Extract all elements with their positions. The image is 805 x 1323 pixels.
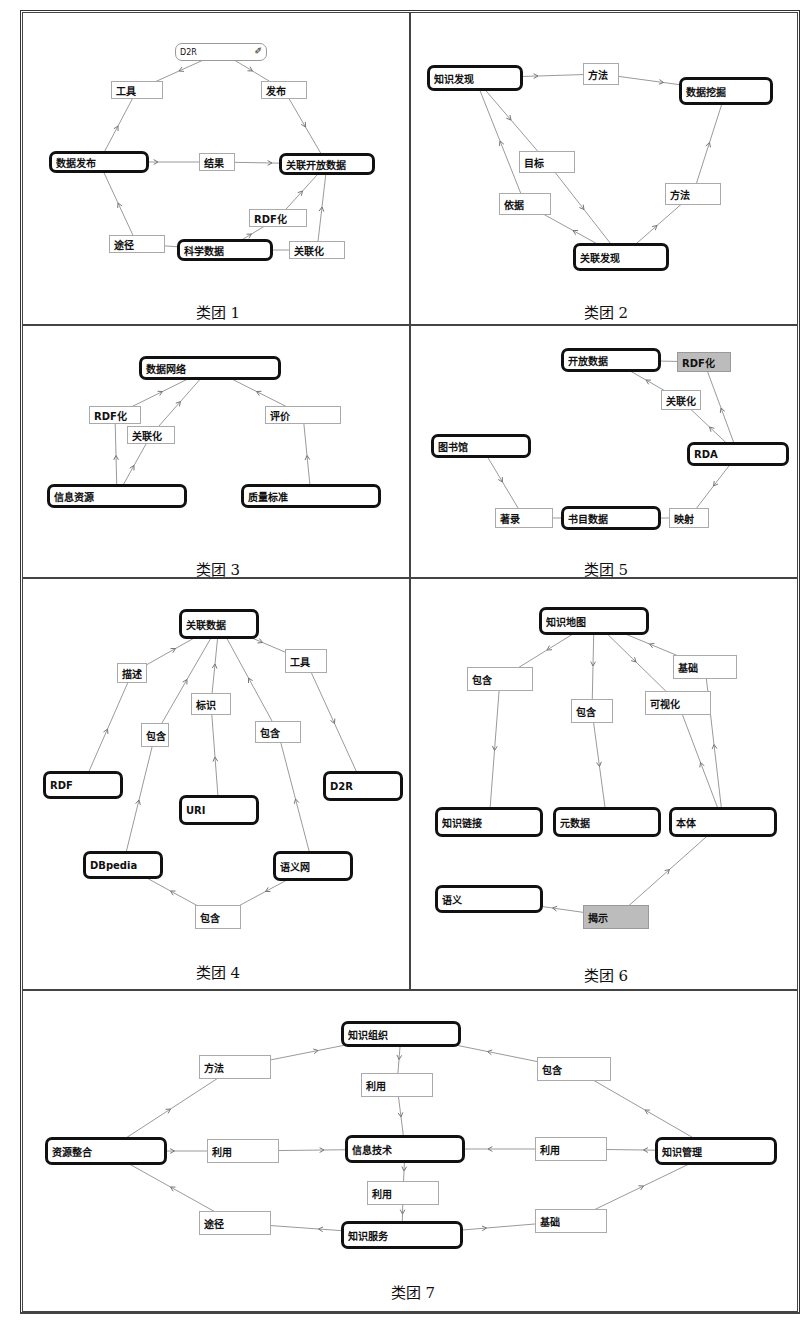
concept-node-zsdt: 知识地图 bbox=[539, 607, 649, 635]
cluster-caption: 类团 2 bbox=[584, 301, 628, 322]
cluster-panel-p3: 数据网络RDF化评价关联化信息资源质量标准类团 3 bbox=[22, 325, 410, 578]
relation-node-ksh: 可视化 bbox=[645, 691, 711, 715]
concept-node-sjwj: 数据挖掘 bbox=[679, 77, 773, 105]
concept-node-rdf: RDF bbox=[43, 771, 123, 799]
edge-glh-glkfsj bbox=[317, 164, 327, 250]
pin-icon: ✐ bbox=[254, 46, 262, 56]
edge-ff2-sjwj bbox=[693, 91, 726, 194]
arrowhead-icon bbox=[257, 391, 262, 395]
concept-node-zsfx: 知识发现 bbox=[427, 65, 523, 91]
arrowhead-icon bbox=[506, 115, 511, 120]
edge-yyw-bh2 bbox=[278, 732, 313, 866]
arrowhead-icon bbox=[534, 74, 538, 79]
arrowhead-icon bbox=[492, 746, 497, 751]
relation-node-bh61: 包含 bbox=[467, 667, 533, 691]
edge-rda-rdfh5 bbox=[704, 362, 738, 454]
arrowhead-icon bbox=[170, 1149, 174, 1154]
cluster-panel-p1: D2R✐工具发布数据发布结果关联开放数据RDF化途径科学数据关联化类团 1 bbox=[22, 12, 410, 325]
concept-node-rda: RDA bbox=[687, 442, 789, 466]
arrowhead-icon bbox=[179, 67, 184, 71]
arrowhead-icon bbox=[591, 662, 596, 666]
arrowhead-icon bbox=[136, 800, 141, 805]
bottom-rule bbox=[20, 1312, 800, 1314]
concept-node-sjwl: 数据网络 bbox=[139, 356, 281, 380]
relation-node-fb: 发布 bbox=[261, 81, 307, 99]
concept-node-zszz: 知识组织 bbox=[341, 1021, 461, 1047]
concept-node-zslj: 知识链接 bbox=[435, 807, 543, 837]
concept-node-glkfsj: 关联开放数据 bbox=[279, 153, 375, 175]
relation-node-ff1: 方法 bbox=[583, 63, 619, 85]
cluster-panel-p2: 知识发现方法数据挖掘目标方法依据关联发现类团 2 bbox=[410, 12, 798, 325]
arrowhead-icon bbox=[665, 870, 670, 875]
arrowhead-icon bbox=[313, 1049, 318, 1054]
cluster-panel-p5: 开放数据RDF化关联化图书馆RDA著录书目数据映射类团 5 bbox=[410, 325, 798, 578]
edge-rdf-ms bbox=[83, 673, 132, 785]
concept-node-zsgl: 知识管理 bbox=[655, 1137, 777, 1165]
relation-node-d2r: D2R✐ bbox=[175, 43, 267, 61]
edge-bh1-glsj bbox=[155, 624, 219, 735]
arrowhead-icon bbox=[294, 799, 299, 804]
arrowhead-icon bbox=[645, 1110, 650, 1114]
arrowhead-icon bbox=[268, 161, 272, 166]
arrowhead-icon bbox=[710, 427, 715, 432]
arrowhead-icon bbox=[488, 1147, 492, 1152]
arrowhead-icon bbox=[659, 80, 664, 85]
arrowhead-icon bbox=[114, 126, 118, 131]
relation-node-pj: 评价 bbox=[265, 406, 341, 424]
arrowhead-icon bbox=[700, 763, 704, 768]
relation-node-tj: 途径 bbox=[109, 235, 165, 253]
relation-node-tj7: 途径 bbox=[199, 1211, 271, 1235]
arrowhead-icon bbox=[247, 234, 252, 238]
arrowhead-icon bbox=[482, 1226, 487, 1231]
arrowhead-icon bbox=[298, 191, 303, 196]
cluster-caption: 类团 5 bbox=[584, 558, 628, 579]
arrowhead-icon bbox=[650, 643, 655, 647]
arrowhead-icon bbox=[644, 1148, 648, 1153]
arrowhead-icon bbox=[597, 762, 602, 767]
arrowhead-icon bbox=[248, 67, 253, 71]
relation-node-ys: 映射 bbox=[669, 508, 709, 528]
relation-node-jc7: 基础 bbox=[535, 1209, 607, 1233]
relation-node-bh62: 包含 bbox=[571, 699, 613, 723]
arrowhead-icon bbox=[130, 466, 134, 471]
relation-node-jc: 基础 bbox=[673, 655, 737, 679]
arrowhead-icon bbox=[158, 391, 163, 395]
concept-node-zlbz: 质量标准 bbox=[241, 484, 381, 508]
edge-bh62-ysj bbox=[592, 711, 607, 822]
relation-node-ly3: 利用 bbox=[535, 1137, 607, 1161]
arrowhead-icon bbox=[154, 160, 158, 165]
relation-node-glh: 关联化 bbox=[289, 241, 345, 259]
relation-node-bs: 标识 bbox=[191, 693, 231, 715]
arrowhead-icon bbox=[706, 143, 711, 148]
arrowhead-icon bbox=[631, 657, 636, 662]
arrowhead-icon bbox=[652, 226, 657, 231]
arrowhead-icon bbox=[258, 639, 263, 643]
relation-node-rdfh3: RDF化 bbox=[89, 406, 141, 424]
cluster-caption: 类团 4 bbox=[196, 961, 240, 982]
relation-node-glh5: 关联化 bbox=[661, 390, 701, 410]
relation-node-bh2: 包含 bbox=[255, 721, 301, 743]
arrowhead-icon bbox=[646, 380, 651, 384]
edge-yj-zsfx bbox=[475, 78, 525, 204]
relation-node-ly2: 利用 bbox=[207, 1139, 279, 1163]
arrowhead-icon bbox=[639, 1186, 644, 1190]
arrowhead-icon bbox=[488, 1050, 493, 1055]
edge-bt-ksh bbox=[678, 703, 723, 822]
relation-node-mb: 目标 bbox=[519, 151, 575, 173]
arrowhead-icon bbox=[171, 891, 176, 895]
relation-node-ms: 描述 bbox=[117, 663, 147, 683]
arrowhead-icon bbox=[720, 408, 724, 413]
arrowhead-icon bbox=[176, 402, 181, 407]
relation-node-gj4: 工具 bbox=[285, 649, 327, 673]
arrowhead-icon bbox=[579, 205, 584, 210]
arrowhead-icon bbox=[171, 649, 176, 653]
concept-node-kfsj: 开放数据 bbox=[561, 348, 661, 372]
concept-node-xxjs: 信息技术 bbox=[345, 1135, 465, 1163]
relation-node-glh3: 关联化 bbox=[127, 426, 175, 444]
concept-node-glsj: 关联数据 bbox=[179, 609, 259, 639]
concept-node-tsg: 图书馆 bbox=[431, 434, 531, 458]
arrowhead-icon bbox=[213, 757, 218, 762]
relation-node-bh1: 包含 bbox=[141, 723, 169, 747]
edge-dbp-bh1 bbox=[123, 735, 155, 865]
concept-node-glfx: 关联发现 bbox=[573, 243, 669, 271]
